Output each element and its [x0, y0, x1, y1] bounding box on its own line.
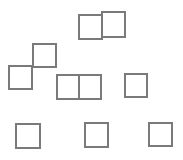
square-mid-pair-left: [56, 74, 80, 100]
square-mid-right: [124, 73, 148, 98]
square-step-lower: [8, 65, 33, 90]
square-top-pair-left: [78, 14, 103, 40]
square-bottom-left: [15, 123, 41, 149]
squares-diagram: [0, 0, 183, 160]
square-step-upper: [32, 43, 57, 68]
square-top-pair-right: [101, 11, 126, 38]
square-bottom-right: [148, 122, 173, 147]
square-bottom-middle: [84, 122, 109, 148]
square-mid-pair-right: [78, 74, 102, 100]
